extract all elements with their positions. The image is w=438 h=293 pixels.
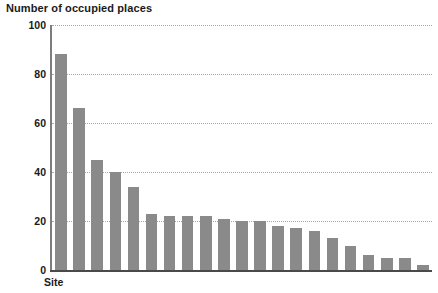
- bar-slot: [342, 25, 360, 270]
- bar[interactable]: [309, 231, 321, 270]
- bar[interactable]: [55, 54, 67, 270]
- bar[interactable]: [254, 221, 266, 270]
- bar-slot: [179, 25, 197, 270]
- bar-slot: [378, 25, 396, 270]
- bar[interactable]: [110, 172, 122, 270]
- bar-slot: [269, 25, 287, 270]
- bar-slot: [52, 25, 70, 270]
- bar[interactable]: [399, 258, 411, 270]
- bar-slot: [414, 25, 432, 270]
- bar[interactable]: [146, 214, 158, 270]
- bar[interactable]: [417, 265, 429, 270]
- bar-slot: [287, 25, 305, 270]
- bar-slot: [88, 25, 106, 270]
- bar[interactable]: [272, 226, 284, 270]
- x-axis-label: Site: [44, 276, 63, 288]
- bar-slot: [360, 25, 378, 270]
- x-axis-line: [50, 270, 432, 272]
- bar[interactable]: [128, 187, 140, 270]
- bar-slot: [106, 25, 124, 270]
- bar-slot: [215, 25, 233, 270]
- bar[interactable]: [345, 246, 357, 271]
- bar-slot: [161, 25, 179, 270]
- bar[interactable]: [218, 219, 230, 270]
- bar-slot: [197, 25, 215, 270]
- bar-slot: [251, 25, 269, 270]
- bar[interactable]: [73, 108, 85, 270]
- y-tick-label-20: 20: [12, 216, 46, 227]
- bar[interactable]: [200, 216, 212, 270]
- chart-title: Number of occupied places: [6, 2, 152, 14]
- bar[interactable]: [290, 228, 302, 270]
- y-tick-label-100: 100: [12, 20, 46, 31]
- bar[interactable]: [164, 216, 176, 270]
- bar-slot: [305, 25, 323, 270]
- bar[interactable]: [327, 238, 339, 270]
- bar-slot: [233, 25, 251, 270]
- y-tick-label-40: 40: [12, 167, 46, 178]
- bar-slot: [323, 25, 341, 270]
- bar-slot: [142, 25, 160, 270]
- bar-series: [52, 25, 432, 270]
- bar[interactable]: [381, 258, 393, 270]
- bar-slot: [124, 25, 142, 270]
- y-tick-label-80: 80: [12, 69, 46, 80]
- bar-slot: [396, 25, 414, 270]
- bar-chart: Number of occupied places 100 80 60 40 2…: [0, 0, 438, 293]
- bar-slot: [70, 25, 88, 270]
- bar[interactable]: [236, 221, 248, 270]
- y-axis-tick-labels: 100 80 60 40 20 0: [8, 25, 46, 270]
- bar[interactable]: [182, 216, 194, 270]
- y-tick-label-0: 0: [12, 265, 46, 276]
- bar[interactable]: [91, 160, 103, 270]
- bar[interactable]: [363, 255, 375, 270]
- y-tick-label-60: 60: [12, 118, 46, 129]
